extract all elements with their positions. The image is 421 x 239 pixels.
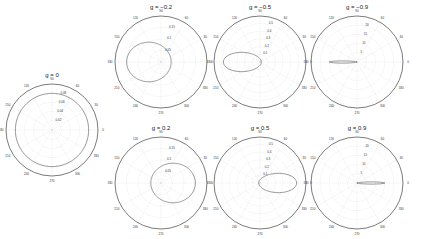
- r-tick-label: 0.05: [165, 169, 171, 173]
- r-tick-label: 0.02: [56, 118, 62, 122]
- r-tick-label: 0.3: [266, 157, 271, 161]
- panel-title: g = 0.2: [152, 125, 171, 131]
- theta-tick-label: 300: [380, 225, 385, 229]
- r-tick-label: 10: [362, 41, 366, 45]
- theta-tick-label: 180: [303, 181, 308, 185]
- theta-tick-label: 210: [114, 86, 119, 90]
- r-tick-label: 20: [365, 144, 369, 148]
- theta-tick-label: 210: [310, 207, 315, 211]
- r-tick-label: 5: [361, 50, 363, 54]
- theta-tick-label: 300: [184, 225, 189, 229]
- theta-tick-label: 30: [94, 103, 98, 107]
- theta-tick-label: 150: [213, 35, 218, 39]
- polar-plot-panel: 03060901201501802102402703003305101520g …: [297, 123, 417, 239]
- r-tick-label: 0.15: [169, 146, 175, 150]
- theta-tick-label: 150: [5, 103, 10, 107]
- theta-tick-label: 120: [232, 137, 237, 141]
- r-tick-label: 0.2: [265, 44, 270, 48]
- theta-tick-label: 120: [133, 137, 138, 141]
- r-tick-label: 0.1: [167, 157, 172, 161]
- theta-tick-label: 210: [5, 154, 10, 158]
- panel-title: g = 0: [45, 72, 59, 78]
- theta-tick-label: 330: [399, 86, 404, 90]
- r-tick-label: 0.5: [269, 142, 274, 146]
- theta-tick-label: 210: [213, 207, 218, 211]
- theta-tick-label: 60: [381, 137, 385, 141]
- theta-tick-label: 150: [310, 156, 315, 160]
- theta-tick-label: 300: [283, 104, 288, 108]
- theta-tick-label: 60: [381, 16, 385, 20]
- panel-title: g = 0.5: [251, 125, 270, 131]
- theta-tick-label: 240: [133, 225, 138, 229]
- theta-tick-label: 60: [284, 137, 288, 141]
- theta-tick-label: 240: [232, 225, 237, 229]
- theta-tick-label: 150: [114, 35, 119, 39]
- r-tick-label: 15: [364, 153, 368, 157]
- theta-tick-label: 270: [257, 111, 262, 115]
- r-tick-label: 5: [361, 171, 363, 175]
- theta-tick-label: 210: [114, 207, 119, 211]
- theta-tick-label: 270: [354, 232, 359, 236]
- theta-tick-label: 270: [354, 111, 359, 115]
- theta-tick-label: 270: [158, 111, 163, 115]
- r-tick-label: 10: [362, 162, 366, 166]
- theta-tick-label: 270: [257, 232, 262, 236]
- theta-tick-label: 240: [133, 104, 138, 108]
- theta-tick-label: 180: [107, 181, 112, 185]
- panel-title: g = −0.5: [249, 4, 272, 10]
- r-tick-label: 0.4: [267, 150, 272, 154]
- theta-tick-label: 180: [206, 181, 211, 185]
- theta-tick-label: 210: [213, 86, 218, 90]
- theta-tick-label: 330: [399, 207, 404, 211]
- theta-tick-label: 180: [0, 128, 4, 132]
- r-tick-label: 0.2: [265, 165, 270, 169]
- theta-tick-label: 240: [24, 172, 29, 176]
- theta-tick-label: 60: [76, 84, 80, 88]
- theta-tick-label: 120: [24, 84, 29, 88]
- r-tick-label: 15: [364, 32, 368, 36]
- theta-tick-label: 60: [185, 16, 189, 20]
- theta-tick-label: 120: [133, 16, 138, 20]
- theta-tick-label: 300: [283, 225, 288, 229]
- theta-tick-label: 150: [213, 156, 218, 160]
- theta-tick-label: 150: [114, 156, 119, 160]
- theta-tick-label: 30: [399, 156, 403, 160]
- r-tick-label: 0.04: [57, 109, 63, 113]
- panel-title: g = 0.9: [348, 125, 367, 131]
- theta-tick-label: 60: [284, 16, 288, 20]
- r-tick-label: 0.1: [167, 36, 172, 40]
- theta-tick-label: 0: [407, 181, 409, 185]
- theta-tick-label: 210: [310, 86, 315, 90]
- theta-tick-label: 180: [107, 60, 112, 64]
- theta-tick-label: 270: [158, 232, 163, 236]
- theta-tick-label: 120: [329, 137, 334, 141]
- polar-plot-panel: 03060901201501802102402703003300.020.040…: [0, 70, 112, 190]
- r-tick-label: 0.06: [59, 100, 65, 104]
- r-tick-label: 20: [365, 23, 369, 27]
- theta-tick-label: 240: [329, 104, 334, 108]
- r-tick-label: 0.3: [266, 36, 271, 40]
- r-tick-label: 0.15: [169, 25, 175, 29]
- theta-tick-label: 330: [94, 154, 99, 158]
- theta-tick-label: 30: [399, 35, 403, 39]
- theta-tick-label: 300: [380, 104, 385, 108]
- theta-tick-label: 240: [232, 104, 237, 108]
- panel-title: g = −0.9: [346, 4, 369, 10]
- theta-tick-label: 180: [303, 60, 308, 64]
- theta-tick-label: 120: [232, 16, 237, 20]
- r-tick-label: 0.08: [60, 91, 66, 95]
- theta-tick-label: 300: [184, 104, 189, 108]
- theta-tick-label: 180: [206, 60, 211, 64]
- r-tick-label: 0.4: [267, 29, 272, 33]
- r-tick-label: 0.5: [269, 21, 274, 25]
- theta-tick-label: 60: [185, 137, 189, 141]
- r-tick-label: 0.1: [263, 51, 268, 55]
- theta-tick-label: 270: [49, 179, 54, 183]
- theta-tick-label: 300: [75, 172, 80, 176]
- theta-tick-label: 120: [329, 16, 334, 20]
- polar-plot-panel: 03060901201501802102402703003305101520g …: [297, 2, 417, 122]
- panel-title: g = −0.2: [150, 4, 173, 10]
- theta-tick-label: 0: [407, 60, 409, 64]
- theta-tick-label: 240: [329, 225, 334, 229]
- theta-tick-label: 150: [310, 35, 315, 39]
